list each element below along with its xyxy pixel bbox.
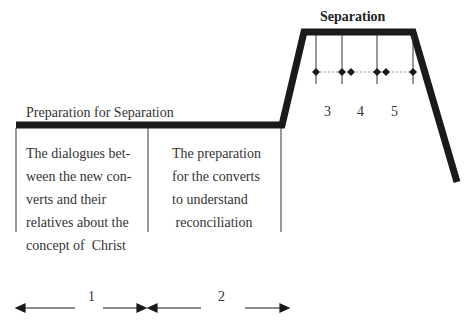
stage-label-preparation: Preparation for Separation — [26, 101, 174, 124]
cell-2-line: to understand — [172, 188, 261, 211]
phase-4-label: 4 — [357, 104, 364, 120]
cell-1: The dialogues bet- ween the new con- ver… — [26, 142, 131, 257]
phase-5-label: 5 — [391, 104, 398, 120]
cell-1-line: relatives about the — [26, 211, 131, 234]
cell-2-line: reconciliation — [172, 211, 261, 234]
cell-1-line: The dialogues bet- — [26, 142, 131, 165]
cell-1-line: ween the new con- — [26, 165, 131, 188]
cell-2: The preparation for the converts to unde… — [172, 142, 261, 234]
stage-label-separation: Separation — [320, 5, 385, 28]
span-arrows — [16, 304, 289, 312]
phase-3-label: 3 — [324, 104, 331, 120]
cell-2-line: The preparation — [172, 142, 261, 165]
cell-1-line: concept of Christ — [26, 234, 131, 257]
span-1-label: 1 — [88, 289, 95, 305]
cell-1-line: verts and their — [26, 188, 131, 211]
cell-2-line: for the converts — [172, 165, 261, 188]
span-2-label: 2 — [218, 289, 225, 305]
